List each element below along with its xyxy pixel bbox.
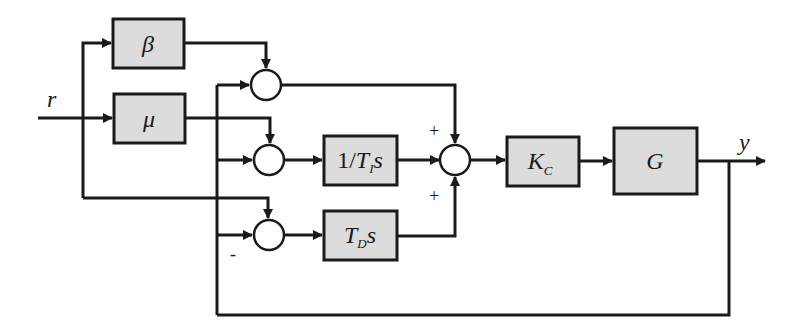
mu-to-sum2-wire bbox=[185, 118, 270, 143]
sum-junction-proportional bbox=[251, 70, 281, 100]
beta-label: β bbox=[141, 31, 154, 57]
derivative-to-mainsum-wire bbox=[397, 177, 455, 236]
plus-sign-bottom: + bbox=[429, 186, 439, 206]
output-label-y: y bbox=[737, 129, 750, 155]
integral-label: 1/TIs bbox=[337, 147, 383, 176]
mu-block: μ bbox=[114, 94, 185, 143]
integral-block: 1/TIs bbox=[324, 136, 397, 185]
sum-junction-derivative bbox=[254, 220, 284, 250]
plant-block: G bbox=[614, 128, 697, 194]
input-label-r: r bbox=[47, 86, 57, 112]
output-signal: y bbox=[697, 129, 765, 161]
plant-label: G bbox=[646, 148, 663, 174]
minus-sign: - bbox=[230, 244, 236, 264]
beta-block: β bbox=[113, 19, 184, 68]
pid-block-diagram: r β μ - 1/TIs TDs bbox=[0, 0, 797, 336]
input-signal: r bbox=[38, 86, 112, 118]
main-sum-junction bbox=[440, 145, 470, 175]
beta-to-sum1-wire bbox=[184, 43, 266, 68]
gain-block: KC bbox=[507, 137, 579, 186]
derivative-block: TDs bbox=[324, 211, 397, 260]
plus-sign-top: + bbox=[429, 121, 439, 141]
sum-junction-integral bbox=[254, 145, 284, 175]
mu-label: μ bbox=[142, 106, 155, 132]
